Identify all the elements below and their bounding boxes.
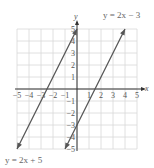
svg-text:2: 2 <box>99 91 103 100</box>
svg-text:1: 1 <box>71 73 75 82</box>
y-axis-label: y <box>73 12 78 21</box>
svg-text:−4: −4 <box>25 91 34 100</box>
svg-text:3: 3 <box>111 91 115 100</box>
svg-text:−5: −5 <box>13 91 22 100</box>
svg-text:4: 4 <box>123 91 127 100</box>
line-label-2x-plus-5: y = 2x + 5 <box>5 155 43 165</box>
axes <box>15 20 146 151</box>
line-label-2x-minus-3: y = 2x − 3 <box>103 10 141 20</box>
x-axis-label: x <box>144 84 149 93</box>
svg-text:−2: −2 <box>49 91 58 100</box>
svg-text:5: 5 <box>135 91 139 100</box>
svg-text:−1: −1 <box>66 97 75 106</box>
coordinate-plane: −5−4−3−2−11234554321−1−2−3−4−5 x y y = 2… <box>0 0 154 168</box>
svg-text:−3: −3 <box>66 121 75 130</box>
svg-text:2: 2 <box>71 61 75 70</box>
svg-text:−2: −2 <box>66 109 75 118</box>
svg-text:3: 3 <box>71 49 75 58</box>
